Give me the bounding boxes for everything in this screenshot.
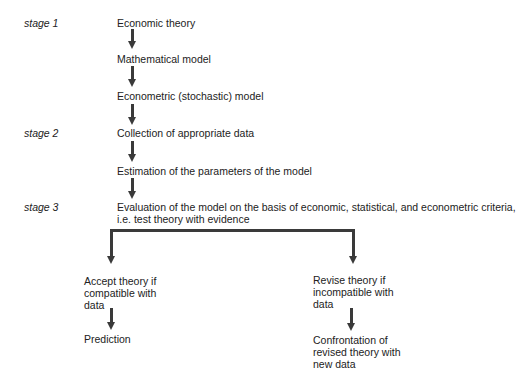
prediction-label: Prediction	[84, 333, 131, 345]
stage-2-label: stage 2	[24, 127, 58, 139]
confrontation-line-3: new data	[313, 358, 356, 370]
step-mathematical-model: Mathematical model	[117, 53, 211, 65]
arrow-down-icon	[128, 66, 137, 87]
step-evaluation-line-2: i.e. test theory with evidence	[117, 213, 250, 225]
confrontation-line-1: Confrontation of	[313, 334, 388, 346]
branch-connector-right	[352, 229, 355, 257]
accept-line-3: data	[84, 299, 104, 311]
step-collection-of-data: Collection of appropriate data	[117, 127, 254, 139]
branch-connector-left	[110, 229, 113, 257]
arrow-down-icon	[347, 308, 356, 331]
stage-3-label: stage 3	[24, 201, 58, 213]
branch-connector-top	[110, 229, 355, 232]
arrow-down-icon	[107, 255, 116, 264]
confrontation-line-2: revised theory with	[313, 346, 401, 358]
arrow-down-icon	[128, 104, 137, 125]
accept-line-1: Accept theory if	[84, 275, 156, 287]
stage-1-label: stage 1	[24, 17, 58, 29]
arrow-down-icon	[349, 255, 358, 264]
step-economic-theory: Economic theory	[117, 17, 195, 29]
step-econometric-model: Econometric (stochastic) model	[117, 90, 263, 102]
arrow-down-icon	[128, 141, 137, 162]
arrow-down-icon	[128, 29, 137, 49]
step-estimation: Estimation of the parameters of the mode…	[117, 165, 312, 177]
arrow-down-icon	[107, 308, 116, 330]
revise-line-2: incompatible with	[313, 286, 394, 298]
step-evaluation: Evaluation of the model on the basis of …	[117, 201, 516, 213]
revise-line-1: Revise theory if	[313, 274, 385, 286]
arrow-down-icon	[128, 178, 137, 199]
revise-line-3: data	[313, 298, 333, 310]
accept-line-2: compatible with	[84, 287, 156, 299]
